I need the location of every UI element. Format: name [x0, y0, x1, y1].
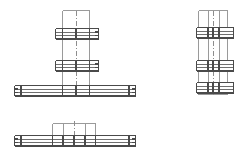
drawing-canvas: [0, 0, 244, 166]
lower-beam-side: [197, 83, 234, 94]
upper-beam-side: [197, 28, 234, 39]
base-beam-front: [15, 86, 136, 97]
view-side-elevation: [197, 11, 234, 95]
middle-beam-side: [197, 61, 234, 72]
plan-beam: [15, 136, 136, 147]
view-front-elevation: [15, 11, 136, 97]
view-plan: [15, 121, 136, 147]
middle-cross-beam-front: [56, 61, 99, 72]
column-outline-side: [199, 11, 228, 95]
column-outline-front: [63, 11, 90, 90]
technical-drawing-svg: [0, 0, 244, 166]
upper-cross-beam-front: [56, 29, 99, 40]
